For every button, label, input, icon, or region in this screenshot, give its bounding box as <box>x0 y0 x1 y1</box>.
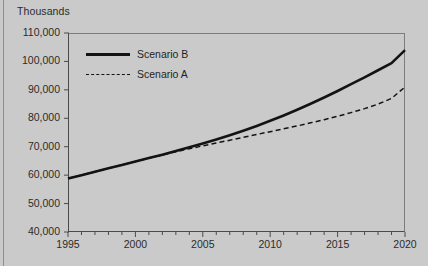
legend-item-label: Scenario A <box>137 68 188 80</box>
legend-item[interactable]: Scenario B <box>86 44 246 64</box>
y-axis-tick-label: 70,000 <box>6 140 60 152</box>
y-axis-tick-label: 60,000 <box>6 168 60 180</box>
plot-svg <box>0 0 428 266</box>
legend-item[interactable]: Scenario A <box>86 64 246 84</box>
y-axis-tick-label: 100,000 <box>6 54 60 66</box>
y-axis-tick-labels: 110,000100,00090,00080,00070,00060,00050… <box>4 0 60 266</box>
legend-item-label: Scenario B <box>137 48 188 60</box>
x-axis-tick-marks <box>68 232 405 237</box>
y-axis-tick-label: 50,000 <box>6 197 60 209</box>
y-axis-tick-label: 40,000 <box>6 225 60 237</box>
x-axis-tick-label: 2010 <box>247 238 293 250</box>
y-axis-tick-label: 80,000 <box>6 111 60 123</box>
y-axis-tick-marks <box>64 33 69 232</box>
x-axis-tick-label: 1995 <box>45 238 91 250</box>
y-axis-tick-label: 110,000 <box>6 26 60 38</box>
x-axis-tick-label: 2020 <box>382 238 428 250</box>
x-axis-tick-label: 2000 <box>112 238 158 250</box>
x-axis-minor-tick-marks <box>81 232 391 235</box>
x-axis-tick-label: 2005 <box>180 238 226 250</box>
solid-line-icon <box>86 49 130 59</box>
x-axis-tick-label: 2015 <box>315 238 361 250</box>
x-axis-tick-labels: 199520002005201020152020 <box>0 238 428 258</box>
y-axis-tick-label: 90,000 <box>6 83 60 95</box>
chart-legend: Scenario BScenario A <box>86 44 246 84</box>
line-chart-figure: Thousands 110,000100,00090,00080,00070,0… <box>0 0 428 266</box>
dashed-line-icon <box>86 69 130 79</box>
chart-page: Thousands 110,000100,00090,00080,00070,0… <box>0 0 428 266</box>
